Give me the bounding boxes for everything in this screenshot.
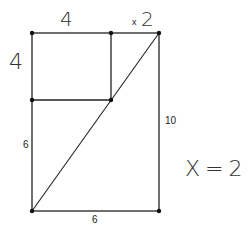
- answer-text: X = 2: [185, 158, 242, 180]
- vertex-bottom-right: [157, 209, 161, 213]
- vertex-top-mid: [109, 31, 113, 35]
- label-left-lower-6: 6: [23, 140, 29, 150]
- vertex-bottom-left: [30, 209, 34, 213]
- vertex-top-right: [157, 31, 161, 35]
- label-top-x-value: 2: [141, 9, 154, 29]
- label-left-side-4: 4: [9, 51, 23, 73]
- label-top-side-4: 4: [60, 9, 73, 29]
- label-top-x: x: [132, 18, 137, 27]
- vertex-mid-left: [30, 98, 34, 102]
- label-bottom-side-6: 6: [92, 215, 98, 225]
- geometry-diagram: [0, 0, 250, 235]
- vertex-top-left: [30, 31, 34, 35]
- diagonal-line: [32, 33, 159, 211]
- vertex-mid-inner: [109, 98, 113, 102]
- label-right-side-10: 10: [165, 116, 176, 126]
